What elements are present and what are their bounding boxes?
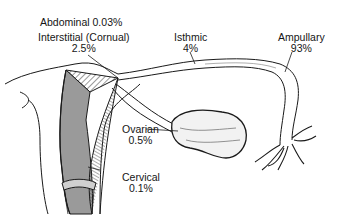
label-isthmic-value: 4%: [174, 43, 207, 54]
uterus: [5, 63, 140, 214]
label-cervical: Cervical 0.1%: [122, 172, 160, 194]
label-ovarian-value: 0.5%: [122, 135, 159, 146]
label-isthmic: Isthmic 4%: [174, 32, 207, 54]
label-abdominal: Abdominal 0.03%: [40, 17, 122, 28]
label-ovarian: Ovarian 0.5%: [122, 124, 159, 146]
label-ampullary: Ampullary 93%: [278, 32, 325, 54]
label-ampullary-value: 93%: [278, 43, 325, 54]
ovary: [112, 84, 246, 158]
label-interstitial: Interstitial (Cornual) 2.5%: [38, 32, 130, 54]
label-cervical-value: 0.1%: [122, 183, 160, 194]
label-interstitial-value: 2.5%: [38, 43, 130, 54]
